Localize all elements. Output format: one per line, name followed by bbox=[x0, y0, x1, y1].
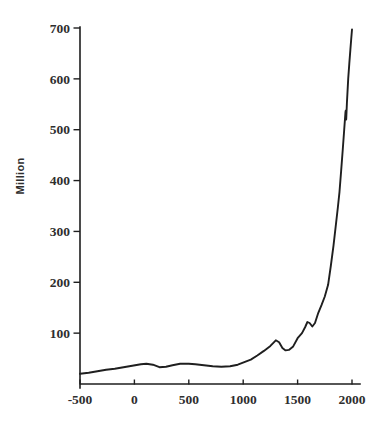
x-tick-label: 0 bbox=[131, 392, 138, 407]
population-million-curve bbox=[80, 30, 352, 374]
population-growth-chart: 100200300400500600700-500050010001500200… bbox=[0, 0, 381, 423]
chart-generated: 100200300400500600700-500050010001500200… bbox=[50, 21, 366, 407]
axis-lines bbox=[80, 27, 360, 388]
x-tick-label: 500 bbox=[179, 392, 200, 407]
y-tick-label: 700 bbox=[50, 21, 71, 36]
x-tick-label: 1000 bbox=[230, 392, 257, 407]
y-tick-label: 500 bbox=[50, 122, 71, 137]
y-tick-label: 200 bbox=[50, 275, 71, 290]
y-axis-title: Million bbox=[14, 158, 26, 195]
chart-svg: 100200300400500600700-500050010001500200… bbox=[0, 0, 381, 423]
x-tick-label: 1500 bbox=[284, 392, 311, 407]
y-tick-label: 400 bbox=[50, 173, 71, 188]
x-tick-label: 2000 bbox=[339, 392, 366, 407]
y-tick-label: 300 bbox=[50, 224, 71, 239]
x-tick-label: -500 bbox=[68, 392, 93, 407]
y-tick-label: 600 bbox=[50, 72, 71, 87]
y-tick-label: 100 bbox=[50, 326, 71, 341]
